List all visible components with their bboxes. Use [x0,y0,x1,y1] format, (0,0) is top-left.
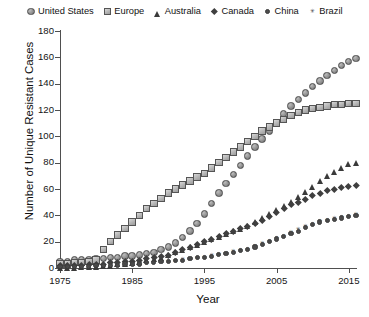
legend-item-china[interactable]: China [263,6,299,16]
plot-area: ✳✳✳✳✳✳✳✳✳✳✳✳✳✳✳✳✳✳✳✳✳✳✳✳✳✳✳✳✳✳✳✳✳✳✳✳✳✳✳✳… [60,31,356,268]
legend-item-label: Australia [165,6,201,16]
x-tick [132,268,133,273]
chart-figure: United StatesEuropeAustraliaCanadaChina✳… [0,0,369,317]
y-tick-label: 0 [14,263,54,273]
legend-item-label: China [275,6,299,16]
square-marker-icon [103,7,112,16]
dot-marker-icon [263,7,272,16]
legend-item-label: Europe [114,6,144,16]
x-tick-label: 2005 [257,275,297,286]
legend-item-brazil[interactable]: ✳Brazil [308,6,343,16]
legend-item-europe[interactable]: Europe [103,6,144,16]
x-marker-icon: ✳ [308,7,317,16]
x-tick-label: 2015 [329,275,369,286]
legend-item-label: United States [38,6,94,16]
chart-legend: United StatesEuropeAustraliaCanadaChina✳… [0,3,369,19]
circle-marker-icon [26,7,35,16]
legend-item-australia[interactable]: Australia [153,6,201,16]
x-tick [277,268,278,273]
data-point: ✳ [352,212,360,218]
x-tick-label: 1995 [184,275,224,286]
legend-item-united-states[interactable]: United States [26,6,93,16]
diamond-marker-icon [210,7,219,16]
legend-item-label: Canada [221,6,254,16]
series-brazil: ✳✳✳✳✳✳✳✳✳✳✳✳✳✳✳✳✳✳✳✳✳✳✳✳✳✳✳✳✳✳✳✳✳✳✳✳✳✳✳✳… [60,31,356,268]
triangle-marker-icon [153,7,162,16]
legend-item-label: Brazil [319,6,342,16]
legend-item-canada[interactable]: Canada [210,6,254,16]
x-tick [204,268,205,273]
y-axis-title: Number of Unique Resistant Cases [23,16,35,246]
x-tick-label: 1985 [112,275,152,286]
x-axis-title: Year [60,292,356,305]
x-tick-label: 1975 [40,275,80,286]
x-tick [349,268,350,273]
